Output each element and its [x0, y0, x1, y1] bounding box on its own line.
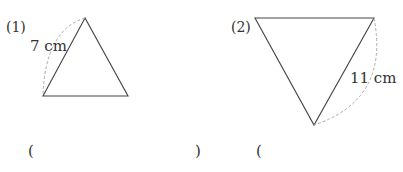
- problem-1-side-label: 7 cm: [30, 39, 67, 54]
- problem-2-number: (2): [231, 20, 251, 34]
- problem-2-side-label: 11 cm: [350, 71, 396, 86]
- answer-2-open-paren: (: [256, 144, 262, 159]
- answer-1-open-paren: (: [28, 144, 34, 159]
- problem-1-number: (1): [6, 20, 26, 34]
- answer-1-close-paren: ): [195, 144, 201, 159]
- figures-canvas: [0, 0, 403, 172]
- triangle-1: [43, 18, 128, 96]
